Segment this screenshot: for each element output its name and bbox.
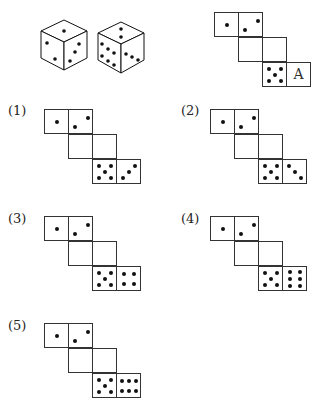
net-face (92, 134, 117, 159)
net-face (44, 216, 69, 241)
net-face (234, 134, 259, 159)
option-label: (2) (181, 103, 199, 118)
option-label: (5) (8, 318, 26, 333)
net-face (258, 134, 283, 159)
net-face (210, 216, 235, 241)
reference-net: A (214, 12, 314, 88)
die-cube-2 (97, 20, 149, 76)
net-face (92, 159, 117, 184)
net-face (68, 109, 93, 134)
net-face (68, 348, 93, 373)
net-face (210, 109, 235, 134)
net-face (44, 323, 69, 348)
net-face (234, 216, 259, 241)
net-face (68, 216, 93, 241)
net-face (116, 266, 141, 291)
net-face (68, 323, 93, 348)
net-face (92, 373, 117, 398)
net-face (234, 109, 259, 134)
net-face (44, 109, 69, 134)
net-face (92, 266, 117, 291)
net-face (92, 241, 117, 266)
net-face (92, 348, 117, 373)
option-label: (1) (8, 103, 26, 118)
net-face (282, 159, 307, 184)
net-face (258, 241, 283, 266)
net-face (68, 241, 93, 266)
net-face (234, 241, 259, 266)
net-face (258, 159, 283, 184)
net-face (258, 266, 283, 291)
face-letter: A (286, 62, 311, 87)
option-label: (3) (8, 211, 26, 226)
net-face (116, 373, 141, 398)
net-face (116, 159, 141, 184)
net-face (68, 134, 93, 159)
die-cube-1 (38, 18, 90, 74)
option-label: (4) (181, 211, 199, 226)
net-face (282, 266, 307, 291)
